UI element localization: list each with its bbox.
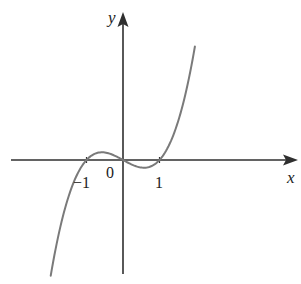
tick-label-neg1: −1 [73,174,90,191]
tick-label-pos1: 1 [155,174,163,191]
y-axis-label: y [106,8,116,27]
cubic-graph: y x 0 −1 1 [0,0,301,284]
origin-label: 0 [106,164,114,181]
x-axis-label: x [286,168,295,187]
